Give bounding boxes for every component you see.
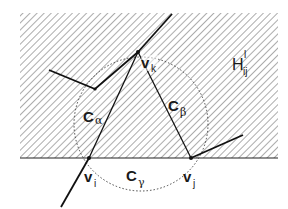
label-c-gamma: C γ xyxy=(126,167,145,189)
label-vi-sub: i xyxy=(94,178,96,189)
label-vi-main: v xyxy=(84,168,93,185)
label-region-h-sup: l xyxy=(244,49,246,60)
vertex-dot-vk xyxy=(136,50,140,54)
label-vi: v i xyxy=(84,168,96,189)
label-vj-main: v xyxy=(183,168,192,185)
vertex-dot-vi xyxy=(87,156,91,160)
label-c-beta-sub: β xyxy=(180,106,186,119)
label-c-alpha-sub: α xyxy=(95,114,103,127)
label-region-h-main: H xyxy=(232,56,244,73)
label-vj-sub: j xyxy=(192,178,195,189)
label-region-h-sub: ij xyxy=(243,66,247,77)
diagram-canvas: v k v i v j C α C β C γ H l ij xyxy=(0,0,288,209)
label-c-gamma-sub: γ xyxy=(138,176,145,189)
label-vk-main: v xyxy=(141,54,150,71)
label-c-alpha-main: C xyxy=(83,108,94,125)
label-vj: v j xyxy=(183,168,195,189)
vertex-dot-vj xyxy=(189,156,193,160)
vertex-dot-bend xyxy=(93,87,96,90)
label-c-gamma-main: C xyxy=(126,167,137,184)
label-c-beta-main: C xyxy=(168,97,179,114)
